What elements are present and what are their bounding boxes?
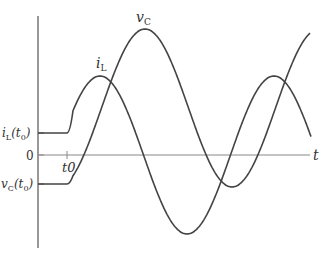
vc-curve — [38, 29, 310, 187]
il-curve-label: iL — [96, 55, 106, 73]
vc-curve-label: vC — [136, 9, 151, 27]
t0-label: t0 — [62, 160, 76, 175]
vc-initial-label: vC(t0) — [1, 177, 34, 193]
il-initial-label: iL(t0) — [2, 126, 31, 142]
lc-response-diagram: iL vC t 0 t0 iL(t0) vC(t0) — [0, 0, 325, 258]
zero-label: 0 — [26, 149, 34, 163]
time-axis-label: t — [313, 147, 319, 163]
